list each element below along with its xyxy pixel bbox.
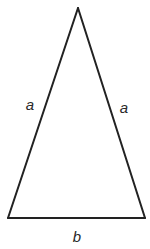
right-side-label: a (120, 100, 128, 115)
triangle-svg (0, 0, 150, 249)
left-side-label: a (26, 97, 34, 112)
base-label: b (73, 229, 81, 244)
triangle-diagram: a a b (0, 0, 150, 249)
left-side-line (8, 8, 78, 218)
right-side-line (78, 8, 145, 218)
